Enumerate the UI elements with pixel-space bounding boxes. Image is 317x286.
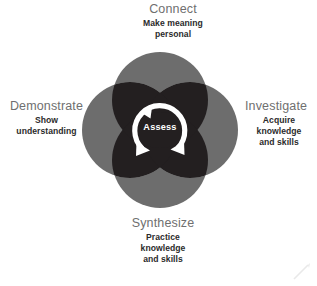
label-connect-title: Connect bbox=[108, 2, 238, 17]
label-investigate-sub-1: Acquire bbox=[245, 115, 313, 125]
label-demonstrate: Demonstrate Show understanding bbox=[0, 99, 95, 136]
label-connect: Connect Make meaning personal bbox=[108, 2, 238, 39]
label-demonstrate-sub-1: Show bbox=[0, 115, 95, 125]
corner-watermark-mark bbox=[291, 260, 313, 282]
label-demonstrate-sub-2: understanding bbox=[0, 126, 95, 136]
label-synthesize-sub-1: Practice bbox=[103, 232, 223, 242]
label-synthesize: Synthesize Practice knowledge and skills bbox=[103, 216, 223, 264]
label-synthesize-sub-3: and skills bbox=[103, 254, 223, 264]
label-investigate-title: Investigate bbox=[245, 99, 317, 114]
label-demonstrate-title: Demonstrate bbox=[0, 99, 95, 114]
label-investigate-sub-3: and skills bbox=[245, 137, 313, 147]
label-investigate: Investigate Acquire knowledge and skills bbox=[245, 99, 317, 147]
label-synthesize-sub-2: knowledge bbox=[103, 243, 223, 253]
label-synthesize-title: Synthesize bbox=[103, 216, 223, 231]
learning-cycle-diagram: Assess Connect Make meaning personal Dem… bbox=[0, 0, 317, 286]
label-investigate-sub-2: knowledge bbox=[245, 126, 313, 136]
label-connect-sub-2: personal bbox=[108, 29, 238, 39]
label-connect-sub-1: Make meaning bbox=[108, 18, 238, 28]
